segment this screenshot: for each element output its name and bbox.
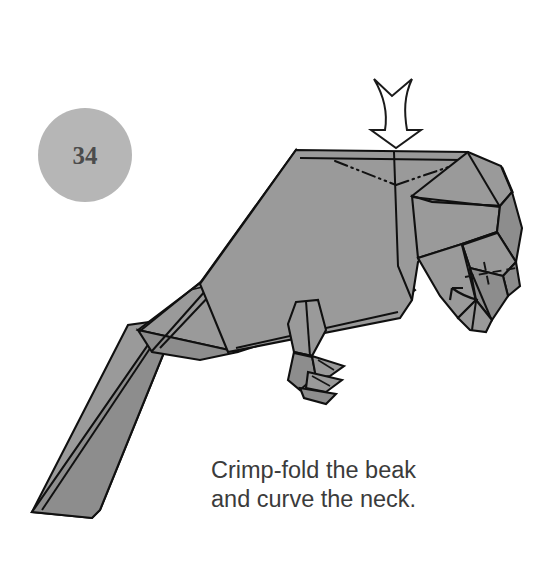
push-in-arrow-shape	[371, 79, 421, 148]
talon-lower	[300, 388, 336, 404]
step-number-badge: 34	[38, 108, 132, 202]
origami-diagram: 34	[0, 0, 559, 575]
step-number-label: 34	[73, 142, 99, 169]
caption-line-1: Crimp-fold the beak	[211, 457, 416, 483]
caption-line-2: and curve the neck.	[211, 486, 416, 512]
caption-block: Crimp-fold the beak and curve the neck.	[211, 457, 416, 512]
origami-diagram-page: 34	[0, 0, 559, 575]
push-in-arrow	[371, 79, 421, 148]
